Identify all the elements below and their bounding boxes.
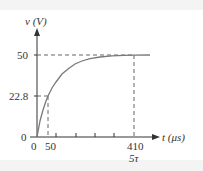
- x-axis-label: t (μs): [162, 132, 185, 143]
- x-tick-label-0: 0: [31, 141, 37, 152]
- y-tick-label-0: 0: [21, 132, 27, 143]
- voltage-curve: [37, 55, 150, 137]
- y-axis-label: v (V): [25, 16, 47, 27]
- x-tick-label-410: 410: [127, 141, 144, 152]
- x-axis-ticks: [56, 133, 114, 137]
- y-tick-label-50: 50: [17, 50, 28, 61]
- x-axis-arrow-icon: [152, 134, 160, 140]
- y-tick-label-22-8: 22.8: [9, 91, 28, 102]
- dashed-guides: [37, 55, 134, 137]
- x-tick-annotation-5tau: 5τ: [129, 153, 138, 164]
- x-tick-label-50: 50: [45, 141, 56, 152]
- y-axis-arrow-icon: [34, 28, 40, 36]
